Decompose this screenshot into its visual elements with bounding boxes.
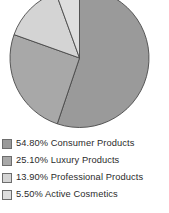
pie-chart-figure: 54.80% Consumer Products 25.10% Luxury P…	[0, 0, 169, 213]
legend-item-consumer-products: 54.80% Consumer Products	[0, 136, 169, 151]
legend-item-active-cosmetics: 5.50% Active Cosmetics	[0, 187, 169, 202]
pie-svg	[0, 0, 169, 134]
legend-item-professional-products: 13.90% Professional Products	[0, 170, 169, 185]
pie-slices-group	[10, 0, 149, 127]
legend-item-label: 13.90% Professional Products	[16, 172, 143, 183]
legend-swatch-icon	[2, 190, 12, 200]
legend-item-label: 25.10% Luxury Products	[16, 155, 119, 166]
legend-item-luxury-products: 25.10% Luxury Products	[0, 153, 169, 168]
legend-item-label: 54.80% Consumer Products	[16, 138, 135, 149]
legend-swatch-icon	[2, 156, 12, 166]
pie-plot-area	[0, 0, 169, 134]
legend-item-label: 5.50% Active Cosmetics	[16, 189, 118, 200]
legend-swatch-icon	[2, 173, 12, 183]
chart-legend: 54.80% Consumer Products 25.10% Luxury P…	[0, 136, 169, 204]
legend-swatch-icon	[2, 139, 12, 149]
